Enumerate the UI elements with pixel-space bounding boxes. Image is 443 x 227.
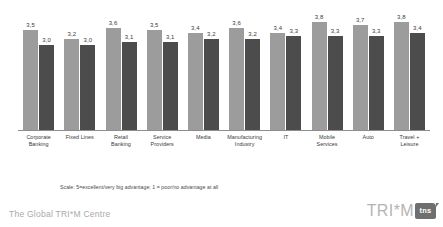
category-label-line: Retail — [100, 134, 141, 141]
category-label: RetailBanking — [100, 134, 141, 148]
bar-series-1[interactable] — [147, 30, 162, 130]
category-label: Travel +Leisure — [389, 134, 430, 148]
plot-area: 3,53,03,23,03,63,13,53,13,43,23,63,23,43… — [18, 12, 430, 130]
bar-value-label: 3,8 — [315, 14, 324, 21]
bar-column[interactable]: 3,4 — [188, 12, 203, 130]
bar-column[interactable]: 3,5 — [147, 12, 162, 130]
x-axis-line — [18, 130, 430, 131]
bar-group: 3,83,4 — [389, 12, 430, 130]
bar-series-2[interactable] — [410, 33, 425, 130]
bar-value-label: 3,2 — [248, 31, 257, 38]
bar-series-2[interactable] — [245, 39, 260, 130]
category-label-line: Banking — [18, 141, 59, 148]
scale-note: Scale: 5=excellent/very big advantage; 1… — [60, 183, 218, 191]
category-label: Media — [183, 134, 224, 148]
bar-value-label: 3,1 — [166, 34, 175, 41]
category-label: ManufacturingIndustry — [224, 134, 265, 148]
slide-root: 3,53,03,23,03,63,13,53,13,43,23,63,23,43… — [0, 0, 443, 227]
bar-group: 3,63,2 — [224, 12, 265, 130]
bar-column[interactable]: 3,1 — [163, 12, 178, 130]
bar-value-label: 3,5 — [150, 22, 159, 29]
bar-series-1[interactable] — [64, 39, 79, 130]
bar-value-label: 3,2 — [67, 31, 76, 38]
footer-title: The Global TRI*M Centre — [9, 209, 111, 220]
category-label-line: Banking — [100, 141, 141, 148]
category-label: IT — [265, 134, 306, 148]
bar-column[interactable]: 3,0 — [80, 12, 95, 130]
bar-series-2[interactable] — [39, 45, 54, 130]
bar-group: 3,63,1 — [100, 12, 141, 130]
category-label-line: Corporate — [18, 134, 59, 141]
bar-column[interactable]: 3,0 — [39, 12, 54, 130]
category-label-line: Leisure — [389, 141, 430, 148]
category-label-line: Travel + — [389, 134, 430, 141]
bar-series-2[interactable] — [328, 36, 343, 130]
bar-group: 3,23,0 — [59, 12, 100, 130]
bar-value-label: 3,0 — [42, 37, 51, 44]
bar-column[interactable]: 3,7 — [353, 12, 368, 130]
bar-value-label: 3,3 — [289, 28, 298, 35]
category-label-line: Fixed Lines — [59, 134, 100, 141]
bar-series-2[interactable] — [163, 42, 178, 130]
bar-column[interactable]: 3,2 — [204, 12, 219, 130]
category-label-line: Industry — [224, 141, 265, 148]
bar-series-1[interactable] — [188, 33, 203, 130]
tns-badge-icon: tns — [415, 203, 436, 219]
bar-group: 3,43,3 — [265, 12, 306, 130]
bar-value-label: 3,2 — [207, 31, 216, 38]
category-label: MobileServices — [306, 134, 347, 148]
bar-column[interactable]: 3,8 — [312, 12, 327, 130]
bar-series-2[interactable] — [122, 42, 137, 130]
bar-value-label: 3,7 — [356, 17, 365, 24]
category-label-line: Mobile — [306, 134, 347, 141]
category-label-line: Services — [306, 141, 347, 148]
bar-column[interactable]: 3,8 — [394, 12, 409, 130]
bar-column[interactable]: 3,1 — [122, 12, 137, 130]
trim-logo-wordmark: TRI*M — [367, 202, 414, 220]
category-axis-labels: CorporateBankingFixed LinesRetailBanking… — [18, 134, 430, 148]
bar-value-label: 3,0 — [83, 37, 92, 44]
bar-series-1[interactable] — [353, 25, 368, 130]
bar-series-1[interactable] — [23, 30, 38, 130]
bar-column[interactable]: 3,4 — [270, 12, 285, 130]
bar-value-label: 3,6 — [109, 20, 118, 27]
bar-column[interactable]: 3,5 — [23, 12, 38, 130]
bar-series-2[interactable] — [369, 36, 384, 130]
category-label-line: Manufacturing — [224, 134, 265, 141]
bar-series-1[interactable] — [229, 28, 244, 130]
category-label-line: Media — [183, 134, 224, 141]
category-label-line: Providers — [142, 141, 183, 148]
bar-column[interactable]: 3,3 — [286, 12, 301, 130]
bar-series-2[interactable] — [204, 39, 219, 130]
bar-series-2[interactable] — [286, 36, 301, 130]
bar-series-1[interactable] — [394, 22, 409, 130]
bar-group: 3,83,3 — [306, 12, 347, 130]
bar-value-label: 3,4 — [273, 25, 282, 32]
bar-column[interactable]: 3,3 — [369, 12, 384, 130]
category-label-line: Auto — [348, 134, 389, 141]
bar-series-1[interactable] — [270, 33, 285, 130]
bar-value-label: 3,3 — [372, 28, 381, 35]
bar-column[interactable]: 3,4 — [410, 12, 425, 130]
category-label: CorporateBanking — [18, 134, 59, 148]
bar-series-1[interactable] — [312, 22, 327, 130]
bar-value-label: 3,5 — [26, 22, 35, 29]
category-label: Auto — [348, 134, 389, 148]
bar-column[interactable]: 3,6 — [106, 12, 121, 130]
bar-chart: 3,53,03,23,03,63,13,53,13,43,23,63,23,43… — [18, 12, 430, 130]
bar-column[interactable]: 3,3 — [328, 12, 343, 130]
bar-value-label: 3,6 — [232, 20, 241, 27]
bar-value-label: 3,3 — [331, 28, 340, 35]
bar-series-2[interactable] — [80, 45, 95, 130]
bar-column[interactable]: 3,6 — [229, 12, 244, 130]
category-label: ServiceProviders — [142, 134, 183, 148]
category-label: Fixed Lines — [59, 134, 100, 148]
category-label-line: IT — [265, 134, 306, 141]
trim-logo: TRI*M tns — [367, 200, 436, 222]
bar-value-label: 3,1 — [125, 34, 134, 41]
bar-series-1[interactable] — [106, 28, 121, 130]
bar-column[interactable]: 3,2 — [245, 12, 260, 130]
tns-badge-label: tns — [420, 207, 432, 215]
bar-column[interactable]: 3,2 — [64, 12, 79, 130]
bar-group: 3,43,2 — [183, 12, 224, 130]
